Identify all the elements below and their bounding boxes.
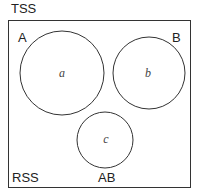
universe-box xyxy=(9,21,191,188)
region-label-ab: AB xyxy=(98,171,115,184)
region-label-rss: RSS xyxy=(12,171,39,184)
circle-label-b: b xyxy=(145,66,151,80)
circle-label-a: a xyxy=(59,66,65,80)
circle-label-c: c xyxy=(103,132,109,146)
venn-diagram: a b c xyxy=(0,0,198,195)
region-label-a: A xyxy=(18,31,27,44)
region-label-b: B xyxy=(172,31,181,44)
